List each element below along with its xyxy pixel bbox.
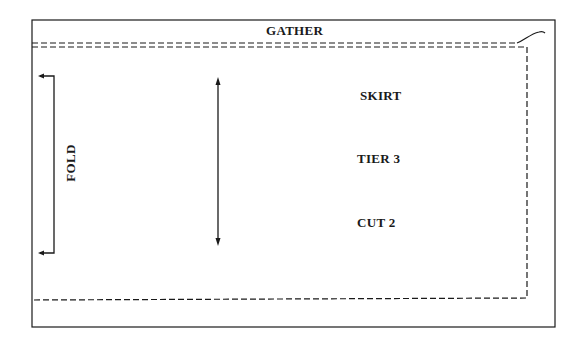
grainline-arrow-icon [216,77,221,246]
fold-bracket-icon [38,74,54,256]
gather-label: GATHER [266,23,323,39]
tier-label: TIER 3 [357,151,400,167]
pattern-diagram [0,0,581,340]
piece-name-label: SKIRT [360,88,402,104]
cut-count-label: CUT 2 [357,215,395,231]
thread-tail-icon [517,32,545,43]
seam-line [32,47,527,300]
outer-cutting-line [32,20,555,327]
fold-label: FOLD [63,144,79,181]
